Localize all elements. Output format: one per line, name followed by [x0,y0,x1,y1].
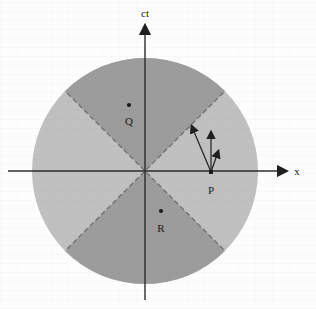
event-r-label: R [157,222,165,234]
event-r-dot [159,209,163,213]
x-axis-label: x [294,165,300,177]
spacetime-diagram: ct x Q R P [0,0,316,309]
ct-axis-label: ct [141,7,149,19]
figure-canvas: ct x Q R P [0,0,316,309]
event-q-dot [127,103,131,107]
event-p-dot [209,170,213,174]
event-q-label: Q [125,115,133,127]
event-p-label: P [208,184,214,196]
